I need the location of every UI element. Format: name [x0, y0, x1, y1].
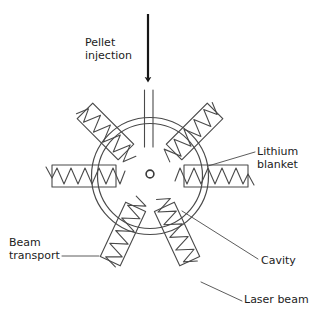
target-pellet: [146, 170, 154, 178]
beam-transport-lower-right: [150, 193, 201, 268]
fusion-chamber-diagram: Pellet injection Lithium blanket Beam tr…: [0, 0, 310, 315]
beam-transport-lower-left: [99, 193, 150, 268]
label-pellet-injection-line2: injection: [85, 49, 132, 62]
beam-transport-left: [46, 165, 125, 187]
label-lithium-blanket-line2: blanket: [257, 158, 298, 171]
beam-transport-upper-left: [74, 100, 140, 166]
label-beam-transport: Beam transport: [9, 236, 60, 262]
label-lithium-blanket: Lithium blanket: [257, 145, 298, 171]
lithium-blanket-inner-wall: [98, 124, 203, 229]
beam-transport-right: [175, 165, 254, 187]
label-laser-beam: Laser beam: [244, 293, 309, 306]
leader-laser-beam: [201, 282, 242, 301]
label-cavity-line1: Cavity: [261, 254, 296, 267]
label-beam-transport-line2: transport: [9, 249, 60, 262]
label-laser-beam-line1: Laser beam: [244, 293, 309, 306]
pellet-injection-tube: [145, 90, 154, 147]
leader-lithium-blanket: [208, 152, 255, 166]
label-pellet-injection: Pellet injection: [85, 36, 132, 62]
label-lithium-blanket-line1: Lithium: [257, 145, 298, 158]
label-cavity: Cavity: [261, 254, 296, 267]
label-pellet-injection-line1: Pellet: [85, 36, 132, 49]
beam-transport-upper-right: [159, 100, 225, 166]
leader-cavity: [182, 211, 258, 259]
label-beam-transport-line1: Beam: [9, 236, 60, 249]
